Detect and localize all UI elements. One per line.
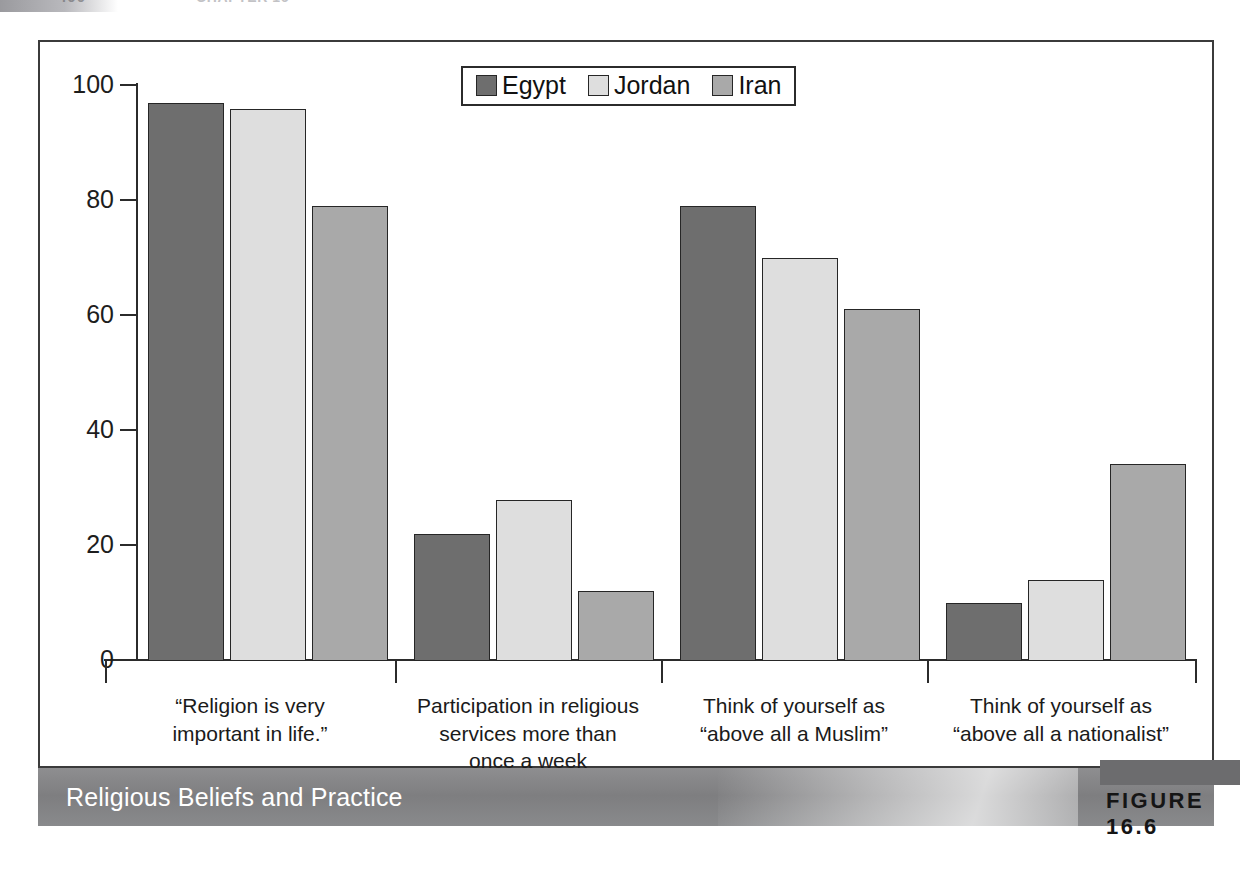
figure-page: 400 CHAPTER 16 0 20 40 60 (0, 0, 1248, 877)
figure-panel: 0 20 40 60 80 100 (38, 40, 1214, 768)
category-label-0: “Religion is very important in life.” (105, 692, 395, 747)
bar-iran-g2 (578, 591, 654, 661)
legend-label-iran: Iran (738, 73, 781, 98)
legend-item-iran[interactable]: Iran (712, 73, 781, 98)
folio-number: 400 (58, 0, 86, 5)
category-label-3-line1: Think of yourself as (927, 692, 1195, 720)
bar-egypt-g4 (946, 603, 1022, 661)
figure-number-label: FIGURE 16.6 (1106, 788, 1214, 840)
bar-jordan-g1 (230, 109, 306, 661)
category-label-1-line2: services more than (395, 720, 661, 748)
figure-caption-band: Religious Beliefs and Practice FIGURE 16… (38, 768, 1214, 826)
bar-egypt-g2 (414, 534, 490, 661)
bar-jordan-g3 (762, 258, 838, 661)
bar-egypt-g3 (680, 206, 756, 661)
category-label-0-line2: important in life.” (105, 720, 395, 748)
legend: Egypt Jordan Iran (461, 66, 796, 106)
bar-iran-g1 (312, 206, 388, 661)
category-label-0-line1: “Religion is very (105, 692, 395, 720)
category-label-2: Think of yourself as “above all a Muslim… (661, 692, 927, 747)
category-label-1: Participation in religious services more… (395, 692, 661, 775)
bar-iran-g4 (1110, 464, 1186, 661)
bar-jordan-g2 (496, 500, 572, 661)
legend-label-jordan: Jordan (614, 73, 690, 98)
legend-swatch-jordan-icon (588, 75, 609, 96)
caption-gloss (718, 768, 1078, 826)
category-label-2-line2: “above all a Muslim” (661, 720, 927, 748)
legend-swatch-iran-icon (712, 75, 733, 96)
bars-layer (40, 42, 1212, 766)
figure-label-tab (1100, 760, 1240, 785)
legend-item-egypt[interactable]: Egypt (476, 73, 566, 98)
category-label-1-line1: Participation in religious (395, 692, 661, 720)
category-label-3-line2: “above all a nationalist” (927, 720, 1195, 748)
bar-jordan-g4 (1028, 580, 1104, 661)
bar-egypt-g1 (148, 103, 224, 661)
bar-iran-g3 (844, 309, 920, 661)
plot-area: 0 20 40 60 80 100 (40, 42, 1212, 766)
legend-swatch-egypt-icon (476, 75, 497, 96)
category-label-2-line1: Think of yourself as (661, 692, 927, 720)
legend-label-egypt: Egypt (502, 73, 566, 98)
page-running-header: 400 CHAPTER 16 (0, 0, 1248, 14)
legend-item-jordan[interactable]: Jordan (588, 73, 690, 98)
category-label-3: Think of yourself as “above all a nation… (927, 692, 1195, 747)
figure-caption: Religious Beliefs and Practice (66, 783, 403, 812)
running-title: CHAPTER 16 (196, 0, 289, 5)
